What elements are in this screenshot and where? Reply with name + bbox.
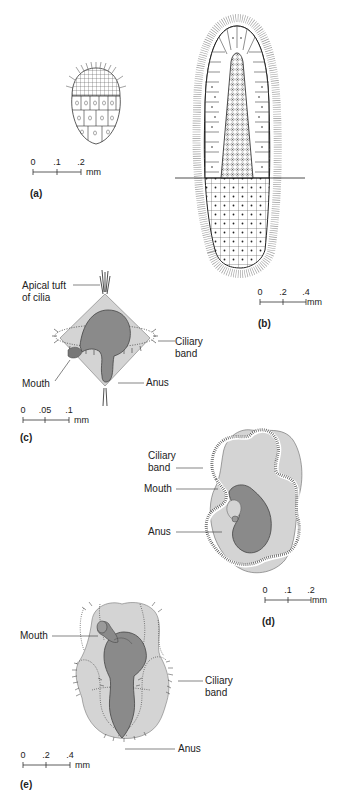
scale-tick: .2 <box>42 750 50 760</box>
scale-tick: .4 <box>66 750 74 760</box>
scale-unit: mm <box>75 760 90 770</box>
leader-lines-e <box>0 0 342 798</box>
scale-tick: 0 <box>20 750 25 760</box>
scale-bar-e: 0 .2 .4 mm <box>20 750 110 774</box>
label-mouth-e: Mouth <box>20 630 48 642</box>
label-anus-e: Anus <box>178 743 201 755</box>
panel-label-e: (e) <box>20 779 32 790</box>
label-ciliary-band-e: Ciliary band <box>205 675 233 699</box>
